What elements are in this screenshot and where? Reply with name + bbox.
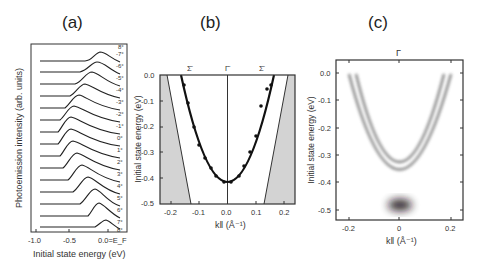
panel-c-plot bbox=[0, 0, 485, 269]
panel-c-ylabel: Initial state energy (eV) bbox=[306, 75, 316, 205]
panel-c-ytick: -0.3 bbox=[318, 151, 331, 160]
panel-c-ytick: -0.4 bbox=[318, 178, 331, 187]
panel-c-top-label: Γ bbox=[396, 48, 401, 58]
panel-c-ytick: -0.1 bbox=[318, 96, 331, 105]
panel-c-ytick: -0.5 bbox=[318, 206, 331, 215]
panel-c-ytick: 0.0 bbox=[320, 69, 330, 78]
panel-c-xtick: 0 bbox=[397, 224, 401, 233]
panel-c-xtick: -0.2 bbox=[342, 224, 355, 233]
panel-c-xtick: 0.2 bbox=[445, 224, 455, 233]
panel-c-xlabel: k‖ (Å⁻¹) bbox=[386, 236, 417, 246]
panel-c-ytick: -0.2 bbox=[318, 124, 331, 133]
